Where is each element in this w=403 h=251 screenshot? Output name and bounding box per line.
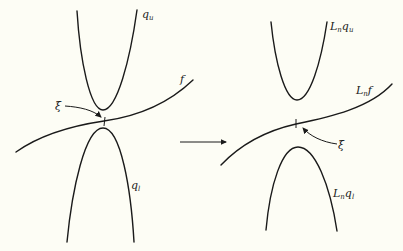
left-middle-curve-f — [16, 80, 193, 152]
left-label-xi: ξ — [55, 101, 61, 112]
right-upper-curve-lnqu — [271, 22, 327, 100]
left-upper-curve-qu — [77, 10, 137, 110]
right-label-lnql: Lnql — [333, 188, 354, 201]
left-xi-pointer-arrow — [65, 106, 101, 117]
right-xi-pointer-arrow — [303, 128, 337, 144]
left-panel — [16, 10, 193, 242]
left-label-qu: qu — [142, 9, 154, 22]
diagram-canvas: qu f ξ ql Lnqu Lnf ξ Lnql — [0, 0, 403, 251]
left-xi-tick — [104, 117, 105, 126]
right-lower-curve-lnql — [266, 147, 337, 231]
right-label-lnqu: Lnqu — [330, 21, 353, 34]
diagram-svg — [0, 0, 403, 251]
right-label-lnf: Lnf — [356, 85, 372, 98]
right-label-xi: ξ — [338, 140, 344, 151]
left-label-f: f — [180, 74, 184, 85]
left-label-ql: ql — [131, 180, 140, 193]
right-panel — [221, 22, 392, 231]
left-lower-curve-ql — [67, 128, 134, 242]
